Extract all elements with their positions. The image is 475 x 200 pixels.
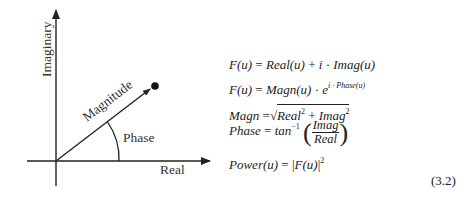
magnitude-label: Magnitude: [80, 77, 136, 125]
eq2-lhs: F(u): [229, 82, 252, 97]
eq1-lhs: F(u): [229, 57, 252, 72]
phasor-diagram: Imaginary Real Magnitude Phase: [0, 0, 230, 200]
eq2-magn-term: Magn(u): [266, 82, 312, 97]
equation-fourier-rectangular: F(u) = Real(u) + i · Imag(u): [229, 57, 375, 73]
eq1-imag-term: Imag(u): [333, 57, 375, 72]
eq3-imag-power: 2: [345, 107, 349, 116]
eq1-real-term: Real(u): [266, 57, 305, 72]
phase-arc: [108, 122, 120, 161]
eq2-dot: ·: [311, 82, 322, 97]
eq2-equals: =: [252, 82, 266, 97]
eq4-denominator: Real: [314, 133, 337, 146]
eq4-tan: tan: [275, 123, 292, 138]
eq4-left-paren: (: [303, 118, 312, 147]
eq5-lhs: Power(u): [229, 157, 278, 172]
equation-phase: Phase = tan−1 (ImagReal): [229, 119, 348, 146]
eq5-power: 2: [320, 156, 324, 165]
imaginary-axis-label: Imaginary: [39, 21, 54, 77]
equation-number: (3.2): [431, 173, 456, 189]
phasor-point: [151, 82, 159, 90]
eq1-dot: ·: [322, 57, 333, 72]
phase-label: Phase: [123, 130, 155, 145]
eq1-equals: =: [252, 57, 266, 72]
eq4-inverse-power: −1: [291, 122, 300, 131]
eq4-numerator: Imag: [312, 119, 340, 133]
eq2-exponent: i · Phase(u): [328, 81, 365, 90]
eq5-inner: F(u): [295, 157, 318, 172]
eq1-plus: +: [305, 57, 319, 72]
eq4-lhs: Phase: [229, 123, 261, 138]
eq4-fraction: ImagReal: [312, 119, 340, 146]
equation-fourier-polar: F(u) = Magn(u) · ei · Phase(u): [229, 81, 365, 98]
real-axis-label: Real: [160, 162, 185, 177]
eq5-equals: =: [278, 157, 292, 172]
eq4-right-paren: ): [339, 118, 348, 147]
equation-power: Power(u) = |F(u)|2: [229, 156, 324, 173]
eq4-equals: =: [261, 123, 275, 138]
